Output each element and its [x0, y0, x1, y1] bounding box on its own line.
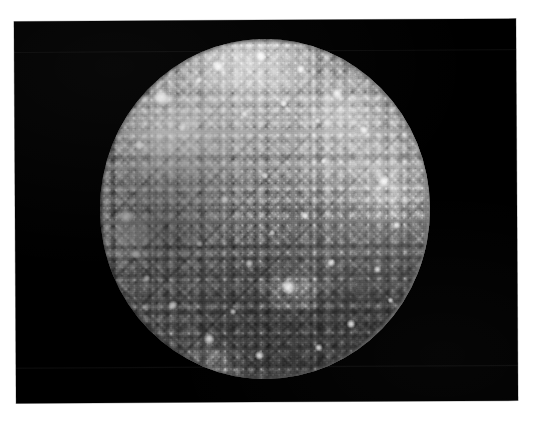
disk-edge-feather — [99, 38, 431, 380]
photo-page: A full disk of a heavily cratered grey m… — [0, 0, 534, 422]
photograph-plate — [14, 19, 518, 404]
image-caption: A full disk of a heavily cratered grey m… — [0, 16, 1, 17]
moon-disk — [99, 38, 431, 380]
